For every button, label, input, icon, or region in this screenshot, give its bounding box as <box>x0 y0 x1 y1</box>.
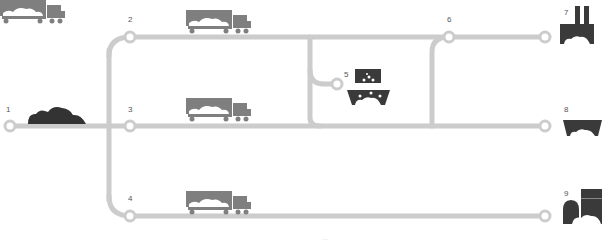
node-3 <box>125 121 135 131</box>
node-label-7: 7 <box>564 9 568 17</box>
truck-icon <box>0 0 65 24</box>
node-label-2: 2 <box>128 16 132 24</box>
node-label-1: 1 <box>6 106 10 114</box>
node-8 <box>540 121 550 131</box>
node-7 <box>540 32 550 42</box>
node-4 <box>125 211 135 221</box>
storage-plant-icon <box>563 189 602 224</box>
node-6 <box>444 32 454 42</box>
node-label-9: 9 <box>564 190 568 198</box>
node-2 <box>125 32 135 42</box>
node-5 <box>332 79 342 89</box>
node-9 <box>540 211 550 221</box>
node-label-6: 6 <box>447 16 451 24</box>
link-line-right <box>432 37 449 126</box>
truck-icon-4 <box>186 191 251 215</box>
node-label-8: 8 <box>564 106 568 114</box>
flow-diagram <box>0 0 608 245</box>
truck-icon-3 <box>186 98 251 122</box>
node-label-3: 3 <box>128 106 132 114</box>
node-label-5: 5 <box>344 71 348 79</box>
washing-plant-icon <box>347 69 390 105</box>
node-1 <box>5 121 15 131</box>
container-icon <box>563 120 602 136</box>
caption: ... <box>322 235 329 241</box>
ore-pile-icon <box>28 107 86 124</box>
truck-icon-2 <box>186 10 251 34</box>
node-label-4: 4 <box>128 195 132 203</box>
